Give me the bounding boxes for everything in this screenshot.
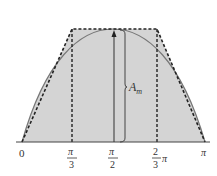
tick-two-pi-third: 2 3 π bbox=[152, 146, 168, 170]
tick-pi: π bbox=[201, 147, 207, 158]
tick-pi-half: π 2 bbox=[108, 146, 118, 170]
svg-text:π: π bbox=[162, 153, 168, 164]
svg-text:3: 3 bbox=[69, 159, 74, 170]
tick-0: 0 bbox=[19, 147, 25, 159]
trapezoid-sine-diagram: Am 0 π 3 π 2 2 3 π π bbox=[0, 0, 217, 176]
svg-text:2: 2 bbox=[110, 159, 115, 170]
svg-text:π: π bbox=[109, 146, 115, 157]
svg-text:π: π bbox=[68, 146, 74, 157]
tick-pi-third: π 3 bbox=[67, 146, 77, 170]
svg-text:3: 3 bbox=[153, 159, 158, 170]
svg-text:2: 2 bbox=[153, 146, 158, 157]
